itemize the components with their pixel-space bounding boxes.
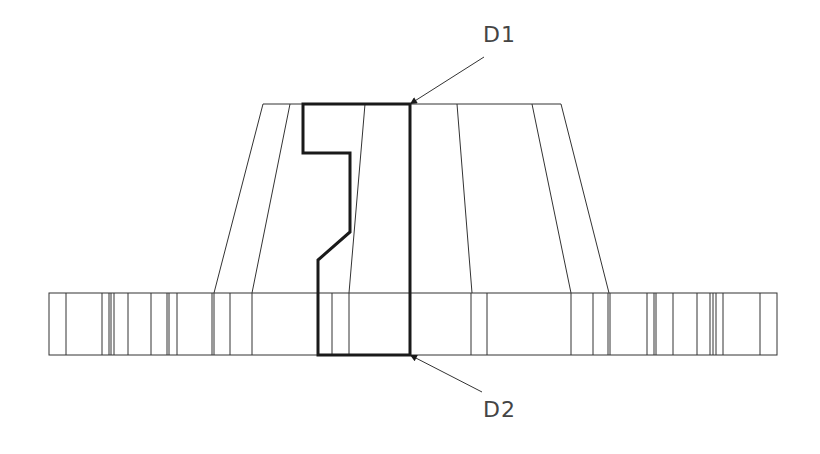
cone-line xyxy=(457,104,472,293)
section-outline xyxy=(303,104,410,355)
cone-line xyxy=(252,104,290,293)
leader-lines xyxy=(410,57,484,392)
leader-arrow-d2 xyxy=(410,355,482,392)
cone-line xyxy=(561,104,609,293)
cone-line xyxy=(532,104,571,293)
cone-line xyxy=(214,104,263,293)
flange-outline xyxy=(49,293,777,355)
leader-arrow-d1 xyxy=(410,57,484,104)
flange-drawing xyxy=(0,0,820,454)
label-d1: D1 xyxy=(483,22,516,47)
flange-body xyxy=(49,293,777,355)
label-d2: D2 xyxy=(483,397,516,422)
